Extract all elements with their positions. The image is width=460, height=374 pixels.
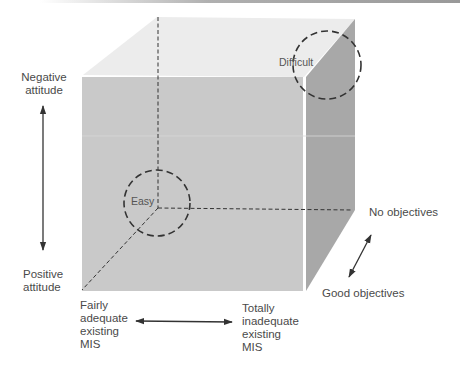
- label-line: Totally: [242, 302, 299, 315]
- difficult-label: Difficult: [279, 56, 313, 68]
- depth-arrow-icon: [349, 235, 371, 277]
- label-line: adequate: [80, 312, 128, 325]
- label-line: attitude: [23, 281, 63, 294]
- label-line: MIS: [242, 341, 299, 354]
- positive-attitude-label: Positive attitude: [23, 268, 63, 294]
- cube-front-face: [82, 77, 303, 291]
- label-line: existing: [80, 325, 128, 338]
- label-line: Positive: [23, 268, 63, 281]
- label-line: Negative: [18, 71, 70, 84]
- fairly-adequate-mis-label: Fairly adequate existing MIS: [80, 299, 128, 351]
- cube-diagram: [0, 0, 460, 374]
- good-objectives-label: Good objectives: [322, 287, 404, 300]
- label-line: attitude: [18, 84, 70, 97]
- easy-label: Easy: [131, 195, 154, 207]
- label-line: inadequate: [242, 315, 299, 328]
- no-objectives-label: No objectives: [369, 206, 438, 219]
- horizontal-arrow-icon: [136, 321, 232, 322]
- label-line: MIS: [80, 338, 128, 351]
- negative-attitude-label: Negative attitude: [18, 71, 70, 97]
- label-line: existing: [242, 328, 299, 341]
- totally-inadequate-mis-label: Totally inadequate existing MIS: [242, 302, 299, 354]
- label-line: Fairly: [80, 299, 128, 312]
